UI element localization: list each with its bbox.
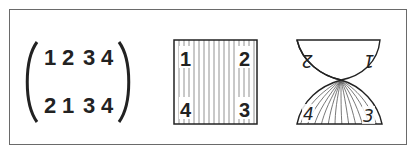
permutation-matrix: 1 2 3 4 2 1 3 4 [27,42,129,122]
twisted-shape: 2 1 4 3 [297,40,382,126]
matrix-top-4: 4 [101,45,114,70]
permutation-diagram: 1 2 3 4 2 1 3 4 [0,0,418,154]
hatched-square: 1 2 4 3 [174,40,257,124]
matrix-bottom-3: 3 [83,93,95,118]
square-label-top-right: 2 [239,48,250,70]
matrix-bottom-2: 1 [62,93,74,118]
square-label-bottom-right: 3 [239,99,250,121]
left-parenthesis [27,42,37,122]
square-label-bottom-left: 4 [180,99,192,121]
twisted-label-bottom-left: 4 [303,104,314,124]
matrix-bottom-4: 4 [101,93,114,118]
matrix-top-1: 1 [44,45,56,70]
twisted-label-top-left: 2 [302,51,313,71]
matrix-top-2: 2 [62,45,74,70]
twisted-label-bottom-right: 3 [363,106,374,126]
square-label-top-left: 1 [180,48,191,70]
matrix-bottom-1: 2 [44,93,56,118]
right-parenthesis [119,42,129,122]
twisted-label-top-right: 1 [364,51,375,71]
matrix-top-3: 3 [83,45,95,70]
